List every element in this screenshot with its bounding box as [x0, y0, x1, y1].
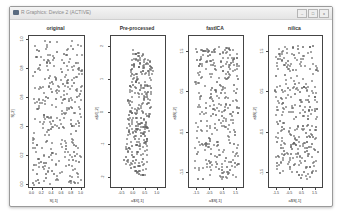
data-point — [314, 99, 316, 101]
data-point — [289, 89, 291, 91]
data-point — [44, 40, 46, 42]
data-point — [78, 95, 80, 97]
y-tick — [266, 91, 268, 92]
data-point — [281, 114, 283, 116]
x-tick-label: -1.5 — [273, 191, 279, 195]
data-point — [283, 128, 285, 130]
data-point — [317, 151, 319, 153]
data-point — [224, 97, 226, 99]
data-point — [142, 153, 144, 155]
data-point — [279, 120, 281, 122]
data-point — [139, 148, 141, 150]
data-point — [304, 106, 306, 108]
data-point — [312, 73, 314, 75]
x-tick-label: 0.8 — [68, 191, 73, 195]
data-point — [40, 161, 42, 163]
data-point — [43, 114, 45, 116]
title-bar[interactable]: R Graphics: Device 2 (ACTIVE) – □ x — [10, 7, 332, 20]
data-point — [299, 99, 301, 101]
data-point — [134, 138, 136, 140]
data-point — [48, 134, 50, 136]
data-point — [225, 120, 227, 122]
data-point — [67, 69, 69, 71]
data-point — [43, 168, 45, 170]
x-tick-label: 1.5 — [233, 191, 238, 195]
data-point — [232, 100, 234, 102]
data-point — [81, 54, 83, 56]
data-point — [151, 73, 153, 75]
data-point — [202, 54, 204, 56]
data-point — [50, 117, 52, 119]
data-point — [65, 142, 67, 144]
data-point — [51, 104, 53, 106]
x-tick-label: 0.0 — [29, 191, 34, 195]
data-point — [280, 147, 282, 149]
data-point — [294, 163, 296, 165]
data-point — [283, 154, 285, 156]
data-point — [138, 162, 140, 164]
data-point — [194, 167, 196, 169]
data-point — [36, 101, 38, 103]
data-point — [307, 118, 309, 120]
plot-area — [110, 35, 166, 188]
data-point — [226, 166, 228, 168]
data-point — [276, 86, 278, 88]
data-point — [311, 57, 313, 59]
minimize-button[interactable]: – — [297, 9, 307, 18]
data-point — [316, 108, 318, 110]
data-point — [50, 88, 52, 90]
data-point — [71, 66, 73, 68]
data-point — [51, 142, 53, 144]
data-point — [302, 58, 304, 60]
data-point — [54, 124, 56, 126]
data-point — [194, 160, 196, 162]
y-tick-label: 0.4 — [20, 124, 24, 129]
data-point — [75, 160, 77, 162]
close-button[interactable]: x — [319, 9, 329, 18]
data-point — [45, 162, 47, 164]
data-point — [222, 65, 224, 67]
data-point — [282, 111, 284, 113]
data-point — [220, 61, 222, 63]
data-point — [129, 133, 131, 135]
data-point — [210, 115, 212, 117]
data-point — [309, 46, 311, 48]
data-point — [40, 56, 42, 58]
data-point — [228, 124, 230, 126]
data-point — [312, 92, 314, 94]
data-point — [236, 68, 238, 70]
data-point — [224, 87, 226, 89]
data-point — [34, 147, 36, 149]
data-point — [55, 79, 57, 81]
data-point — [138, 96, 140, 98]
data-point — [279, 55, 281, 57]
data-point — [300, 101, 302, 103]
x-tick-label: -0.5 — [206, 191, 212, 195]
data-point — [287, 60, 289, 62]
data-point — [298, 52, 300, 54]
data-point — [307, 153, 309, 155]
x-tick-label: 1.5 — [312, 191, 317, 195]
data-point — [297, 148, 299, 150]
data-point — [138, 52, 140, 54]
data-point — [200, 56, 202, 58]
data-point — [292, 47, 294, 49]
data-point — [57, 179, 59, 181]
data-point — [224, 49, 226, 51]
data-point — [39, 86, 41, 88]
data-point — [128, 123, 130, 125]
data-point — [44, 118, 46, 120]
data-point — [212, 100, 214, 102]
data-point — [196, 153, 198, 155]
data-point — [214, 155, 216, 157]
data-point — [209, 105, 211, 107]
data-point — [229, 68, 231, 70]
data-point — [61, 102, 63, 104]
data-point — [42, 123, 44, 125]
data-point — [135, 159, 137, 161]
data-point — [144, 150, 146, 152]
data-point — [238, 107, 240, 109]
maximize-button[interactable]: □ — [308, 9, 318, 18]
data-point — [305, 83, 307, 85]
y-tick — [108, 46, 110, 47]
